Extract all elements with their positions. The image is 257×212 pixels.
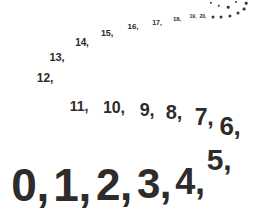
sequence-number: 17,: [152, 19, 162, 26]
sequence-number: 6,: [219, 113, 240, 139]
sequence-number: 20,: [200, 14, 207, 19]
sequence-number: 14,: [75, 38, 89, 48]
sequence-dot-icon: [218, 5, 220, 7]
sequence-dot-icon: [212, 16, 215, 19]
sequence-number: 5,: [207, 145, 231, 175]
sequence-number: 2,: [96, 163, 132, 207]
sequence-number: 18,: [173, 16, 181, 22]
sequence-number: 8,: [166, 102, 182, 122]
sequence-dot-icon: [237, 12, 240, 15]
figure-canvas: 0,1,2,3,4,5,6,7,8,9,10,11,12,13,14,15,16…: [0, 0, 257, 212]
sequence-number: 19,: [190, 14, 197, 19]
sequence-dot-icon: [228, 14, 231, 17]
sequence-number: 10,: [103, 100, 125, 116]
sequence-number: 9,: [140, 101, 155, 119]
sequence-dot-icon: [243, 8, 246, 11]
sequence-dot-icon: [245, 2, 248, 5]
sequence-number: 16,: [128, 23, 139, 31]
sequence-number: 12,: [37, 72, 53, 84]
sequence-dot-icon: [235, 1, 237, 3]
sequence-dot-icon: [227, 6, 230, 9]
sequence-number: 3,: [137, 163, 171, 205]
sequence-number: 7,: [195, 106, 214, 129]
sequence-number: 0,: [11, 162, 48, 208]
sequence-number: 1,: [53, 162, 90, 208]
sequence-number: 15,: [101, 29, 113, 38]
sequence-number: 11,: [70, 99, 88, 113]
sequence-dot-icon: [220, 16, 223, 19]
sequence-number: 4,: [175, 164, 204, 200]
sequence-number: 13,: [50, 52, 65, 63]
sequence-dot-icon: [210, 2, 212, 4]
